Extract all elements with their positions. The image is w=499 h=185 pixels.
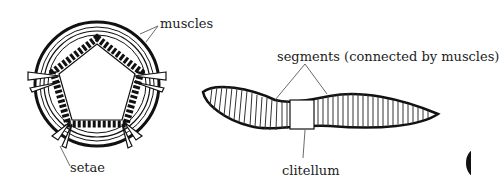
- side-view: [203, 64, 438, 158]
- cross-section: [28, 22, 166, 166]
- label-segments: segments (connected by muscles): [277, 50, 499, 63]
- cropped-shape: [466, 149, 471, 177]
- label-muscles: muscles: [160, 17, 213, 30]
- label-setae: setae: [70, 161, 105, 174]
- label-clitellum: clitellum: [282, 164, 340, 177]
